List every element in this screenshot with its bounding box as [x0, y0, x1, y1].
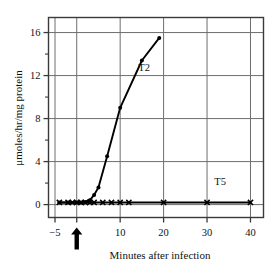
x-tick-label-40: 40 — [245, 227, 256, 238]
y-axis-title: μmoles/hr/mg protein — [12, 70, 24, 166]
data-point — [118, 106, 122, 110]
data-point — [96, 185, 100, 189]
y-tick-label-12: 12 — [30, 70, 41, 81]
series-label-T2: T2 — [138, 62, 150, 73]
x-tick-label-10: 10 — [115, 227, 126, 238]
x-axis-title: Minutes after infection — [110, 249, 211, 261]
chart-background — [0, 0, 277, 278]
chart-figure: 0481216 −510203040 T2T5 Minutes after in… — [0, 0, 277, 278]
x-tick-label-30: 30 — [202, 227, 213, 238]
y-tick-label-0: 0 — [35, 199, 40, 210]
x-tick-label--5: −5 — [49, 227, 60, 238]
y-tick-label-8: 8 — [35, 113, 40, 124]
data-point — [92, 193, 96, 197]
series-label-T5: T5 — [214, 176, 226, 187]
y-tick-label-4: 4 — [35, 156, 41, 167]
data-point — [157, 36, 161, 40]
x-tick-label-20: 20 — [158, 227, 169, 238]
data-point — [105, 154, 109, 158]
enzyme-activity-line-chart: 0481216 −510203040 T2T5 Minutes after in… — [0, 0, 277, 278]
y-tick-label-16: 16 — [30, 27, 41, 38]
